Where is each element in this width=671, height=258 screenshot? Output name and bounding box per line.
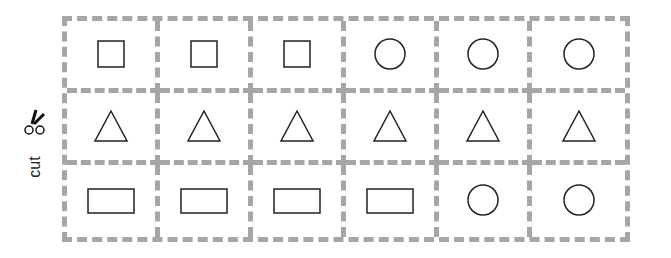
rectangle-icon [180,181,228,221]
card-square [160,21,253,93]
card-circle [346,21,439,93]
card-circle [439,165,532,237]
cutout-grid [62,16,630,242]
cut-indicator: cut [22,108,48,176]
triangle-icon [92,107,130,147]
card-triangle [346,93,439,165]
card-circle [532,21,625,93]
rectangle-icon [366,181,414,221]
circle-icon [560,35,598,75]
circle-icon [464,181,502,221]
triangle-icon [185,107,223,147]
triangle-icon [278,107,316,147]
triangle-icon [560,107,598,147]
square-icon [278,35,316,75]
triangle-icon [464,107,502,147]
triangle-icon [371,107,409,147]
square-icon [185,35,223,75]
card-rectangle [67,165,160,237]
rectangle-icon [273,181,321,221]
card-rectangle [346,165,439,237]
card-rectangle [253,165,346,237]
circle-icon [560,181,598,221]
scissors-icon [22,108,48,142]
circle-icon [371,35,409,75]
square-icon [92,35,130,75]
card-square [253,21,346,93]
card-triangle [67,93,160,165]
card-square [67,21,160,93]
rectangle-icon [87,181,135,221]
card-circle [439,21,532,93]
card-rectangle [160,165,253,237]
circle-icon [464,35,502,75]
card-triangle [532,93,625,165]
card-triangle [253,93,346,165]
cut-label: cut [26,156,44,177]
card-triangle [160,93,253,165]
card-circle [532,165,625,237]
card-triangle [439,93,532,165]
